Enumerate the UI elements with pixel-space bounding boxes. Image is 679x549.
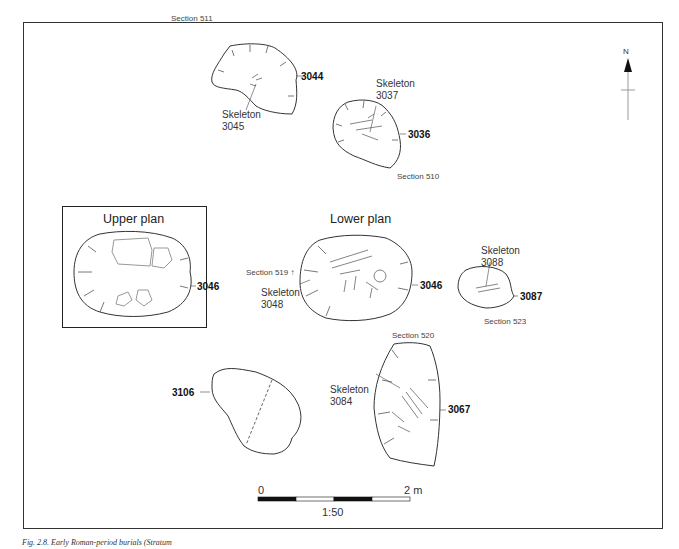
- section-label-523: Section 523: [484, 317, 526, 326]
- skeleton-word: Skeleton: [261, 287, 300, 299]
- pit-outline-3106: [212, 369, 301, 455]
- plan-drawing: [0, 0, 679, 549]
- north-arrow-icon: [621, 58, 635, 120]
- feature-id-3106: 3106: [172, 387, 194, 399]
- skeleton-word: Skeleton: [376, 78, 415, 90]
- feature-id-3087: 3087: [520, 291, 542, 303]
- scale-end-label: 2 m: [404, 484, 422, 497]
- section-label-510: Section 510: [397, 172, 439, 181]
- feature-id-3046-upper: 3046: [197, 281, 219, 293]
- skeleton-word: Skeleton: [330, 384, 369, 396]
- pit-outline-3036: [333, 100, 401, 168]
- section-label-519: Section 519 ↑: [246, 268, 295, 277]
- feature-id-3036: 3036: [408, 129, 430, 141]
- skeleton-id: 3045: [222, 121, 261, 133]
- scale-bar-graphic: [258, 497, 410, 501]
- feature-id-3046-lower: 3046: [420, 280, 442, 292]
- skeleton-id: 3084: [330, 396, 369, 408]
- feature-id-3067: 3067: [448, 404, 470, 416]
- skeleton-label-3084: Skeleton 3084: [330, 384, 369, 407]
- section-label-text: Section 519: [246, 268, 288, 277]
- skeleton-id: 3037: [376, 90, 415, 102]
- skeleton-label-3088: Skeleton 3088: [481, 245, 520, 268]
- pit-outline-3044: [212, 44, 297, 114]
- scale-ratio-label: 1:50: [322, 506, 343, 519]
- section-label-511: Section 511: [171, 14, 213, 23]
- skeleton-label-3037: Skeleton 3037: [376, 78, 415, 101]
- pit-outline-3067: [374, 343, 440, 466]
- figure-caption: Fig. 2.8. Early Roman-period burials (St…: [22, 538, 172, 547]
- feature-id-3044: 3044: [301, 71, 323, 83]
- skeleton-label-3048: Skeleton 3048: [261, 287, 300, 310]
- north-label: N: [623, 47, 629, 56]
- skeleton-id: 3048: [261, 299, 300, 311]
- skeleton-id: 3088: [481, 257, 520, 269]
- skeleton-word: Skeleton: [222, 109, 261, 121]
- scale-start-label: 0: [258, 484, 264, 497]
- section-label-520: Section 520: [392, 331, 434, 340]
- lower-plan-title: Lower plan: [330, 212, 391, 226]
- upper-plan-title: Upper plan: [103, 212, 164, 226]
- pit-outline-3087: [458, 267, 514, 308]
- pit-outline-upper-3046: [74, 231, 191, 316]
- skeleton-label-3045: Skeleton 3045: [222, 109, 261, 132]
- skeleton-word: Skeleton: [481, 245, 520, 257]
